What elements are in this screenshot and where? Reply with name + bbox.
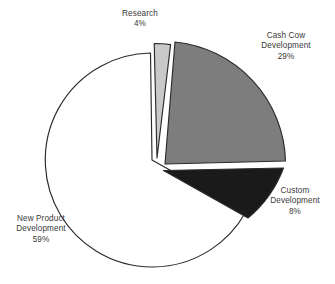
pie-label-new-product-name-line1: New Product [1, 214, 81, 224]
pie-label-custom-name-line1: Custom [256, 186, 334, 196]
pie-label-cash-cow-name-line1: Cash Cow [240, 31, 332, 41]
pie-label-research-name: Research [104, 9, 176, 19]
pie-label-cash-cow-name-line2: Development [240, 41, 332, 51]
pie-label-cash-cow-development: Cash Cow Development 29% [240, 31, 332, 62]
pie-label-new-product-development: New Product Development 59% [1, 214, 81, 245]
pie-label-research: Research 4% [104, 9, 176, 30]
pie-label-cash-cow-percent: 29% [240, 52, 332, 62]
pie-label-new-product-name-line2: Development [1, 224, 81, 234]
pie-label-custom-percent: 8% [256, 207, 334, 217]
pie-label-custom-name-line2: Development [256, 196, 334, 206]
pie-label-research-percent: 4% [104, 19, 176, 29]
pie-label-new-product-percent: 59% [1, 235, 81, 245]
pie-chart: Research 4% Cash Cow Development 29% Cus… [0, 0, 335, 284]
pie-label-custom-development: Custom Development 8% [256, 186, 334, 217]
